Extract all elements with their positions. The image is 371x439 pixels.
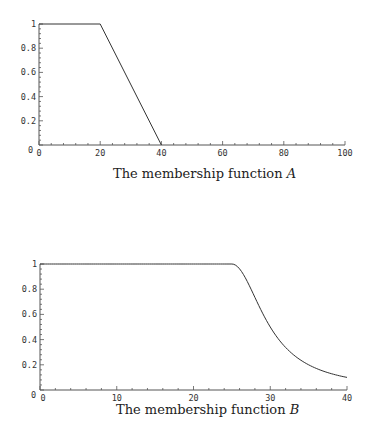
y-tick-label: 0 xyxy=(31,390,36,400)
y-tick-label: 1 xyxy=(31,19,36,29)
charts-canvas: 02040608010000.20.40.60.81 01020304000.2… xyxy=(0,0,371,439)
y-tick-label: 0.4 xyxy=(22,335,37,345)
chart-membership-a: 02040608010000.20.40.60.81 xyxy=(21,19,353,158)
y-tick-label: 0.4 xyxy=(21,92,36,102)
y-tick-label: 0.2 xyxy=(22,360,37,370)
series-line xyxy=(40,264,347,377)
y-tick-label: 0.2 xyxy=(21,116,36,126)
chart-membership-b: 01020304000.20.40.60.81 xyxy=(22,259,352,403)
caption-membership-a: The membership function A xyxy=(113,166,296,181)
x-tick-label: 80 xyxy=(279,148,289,158)
y-tick-label: 0.8 xyxy=(22,284,37,294)
caption-variable: B xyxy=(290,402,300,417)
caption-variable: A xyxy=(287,166,296,181)
x-tick-label: 0 xyxy=(36,148,41,158)
x-tick-label: 100 xyxy=(337,148,352,158)
y-tick-label: 0 xyxy=(28,145,33,155)
y-tick-label: 0.8 xyxy=(21,43,36,53)
x-tick-label: 0 xyxy=(40,393,45,403)
x-tick-label: 40 xyxy=(342,393,352,403)
x-tick-label: 40 xyxy=(156,148,166,158)
caption-text: The membership function xyxy=(113,166,287,181)
y-tick-label: 1 xyxy=(32,259,37,269)
y-tick-label: 0.6 xyxy=(22,309,37,319)
x-tick-label: 60 xyxy=(217,148,227,158)
caption-membership-b: The membership function B xyxy=(116,402,299,417)
x-tick-label: 20 xyxy=(95,148,105,158)
series-line xyxy=(39,24,161,145)
y-tick-label: 0.6 xyxy=(21,67,36,77)
caption-text: The membership function xyxy=(116,402,290,417)
